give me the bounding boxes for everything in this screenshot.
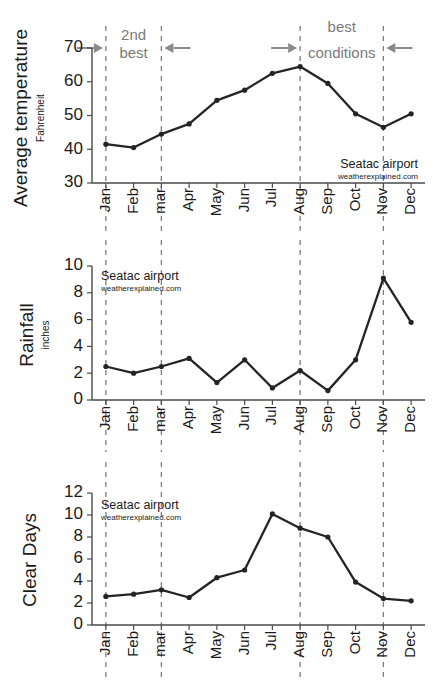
axes: 3040506070JanFebmarAprMayJunJulAugSepOct… [64,37,425,216]
x-tick-label-mar: mar [151,188,168,214]
y-axis-title-rainfall: Rainfall [16,303,37,366]
x-tick-label-dec: Dec [401,631,418,658]
annotation-second-best-line1: 2nd [121,26,146,43]
data-point-jun [242,357,247,362]
data-point-apr [187,356,192,361]
data-point-mar [159,131,164,136]
series-line-rainfall [106,278,411,391]
source-url: weatherexplained.com [100,284,181,293]
arrow-into-best-conditions-right-head [386,43,395,53]
y-tick-label: 60 [64,71,83,90]
data-point-sep [325,388,330,393]
data-point-may [214,380,219,385]
y-tick-label: 40 [64,139,83,158]
source-name: Seatac airport [101,269,179,283]
y-tick-label: 4 [74,336,83,355]
data-point-feb [131,145,136,150]
y-tick-label: 30 [64,172,83,191]
data-point-dec [409,598,414,603]
data-point-may [214,575,219,580]
data-point-nov [381,275,386,280]
x-tick-label-jun: Jun [235,188,252,212]
y-tick-label: 2 [74,363,83,382]
x-tick-label-jun: Jun [235,406,252,430]
clear-days-chart: 024681012JanFebmarAprMayJunJulAugSepOctN… [0,462,433,688]
weather-charts-page: 2ndbestbestconditions3040506070JanFebmar… [0,0,433,688]
y-tick-label: 6 [74,548,83,567]
arrow-into-best-conditions-left-head [288,43,297,53]
data-point-mar [159,364,164,369]
x-tick-label-mar: mar [151,631,168,657]
data-point-jul [270,511,275,516]
x-tick-label-jul: Jul [262,406,279,425]
y-tick-label: 0 [74,389,83,408]
data-point-apr [187,121,192,126]
source-attribution-clear-days: Seatac airportweatherexplained.com [100,498,181,522]
x-tick-label-apr: Apr [179,631,196,654]
y-tick-label: 8 [74,282,83,301]
series-line-clear-days [106,514,411,601]
x-tick-label-jan: Jan [96,406,113,430]
x-tick-label-jun: Jun [235,631,252,655]
y-tick-label: 70 [64,37,83,56]
source-url: weatherexplained.com [100,513,181,522]
data-point-dec [409,111,414,116]
annotation-best-conditions-line1: best [328,18,357,35]
series-points-average-temperature [103,64,413,150]
y-axis-title-average-temperature: Average temperature [10,29,31,207]
source-attribution-average-temperature: Seatac airportweatherexplained.com [337,157,419,181]
x-tick-label-may: May [207,631,224,660]
y-tick-label: 4 [74,570,83,589]
chart-panel-clear-days: 024681012JanFebmarAprMayJunJulAugSepOctN… [0,462,433,688]
source-name: Seatac airport [101,498,179,512]
data-point-sep [325,81,330,86]
source-name: Seatac airport [340,157,418,171]
source-url: weatherexplained.com [337,172,418,181]
y-tick-label: 2 [74,592,83,611]
axis-titles: Average temperatureFahrenheit [10,29,46,207]
y-tick-label: 50 [64,105,83,124]
data-point-jan [103,594,108,599]
y-tick-label: 8 [74,526,83,545]
x-tick-label-oct: Oct [346,630,363,654]
y-tick-label: 10 [64,255,83,274]
data-point-sep [325,534,330,539]
series-points-rainfall [103,275,413,393]
x-tick-label-aug: Aug [290,406,307,433]
x-tick-label-sep: Sep [318,188,335,215]
data-point-jul [270,71,275,76]
x-tick-label-sep: Sep [318,631,335,658]
y-axis-subtitle-rainfall: inches [40,321,51,350]
average-temperature-chart: 2ndbestbestconditions3040506070JanFebmar… [0,0,433,240]
x-tick-label-jan: Jan [96,188,113,212]
series-line-average-temperature [106,67,411,148]
source-attribution-rainfall: Seatac airportweatherexplained.com [100,269,181,293]
data-point-jan [103,142,108,147]
data-point-oct [353,357,358,362]
annotation-band: 2ndbestbestconditions [77,18,413,61]
x-tick-label-nov: Nov [373,406,390,433]
x-tick-label-feb: Feb [124,188,141,214]
x-tick-label-nov: Nov [373,188,390,215]
data-point-feb [131,592,136,597]
y-axis-subtitle-average-temperature: Fahrenheit [35,94,46,142]
x-tick-label-feb: Feb [124,631,141,657]
x-tick-label-oct: Oct [346,187,363,211]
x-tick-label-jul: Jul [262,631,279,650]
data-point-nov [381,125,386,130]
y-tick-label: 6 [74,309,83,328]
data-point-oct [353,580,358,585]
data-point-aug [298,368,303,373]
x-tick-label-oct: Oct [346,405,363,429]
data-point-aug [298,526,303,531]
x-tick-label-nov: Nov [373,631,390,658]
data-point-aug [298,64,303,69]
chart-panel-average-temperature: 2ndbestbestconditions3040506070JanFebmar… [0,0,433,240]
axis-titles: Clear Days [19,513,40,607]
arrow-into-second-best-right-head [164,43,173,53]
annotation-best-conditions-line2: conditions [308,44,376,61]
data-point-jan [103,364,108,369]
data-point-nov [381,596,386,601]
data-point-feb [131,371,136,376]
chart-panel-rainfall: 0246810JanFebmarAprMayJunJulAugSepOctNov… [0,240,433,462]
